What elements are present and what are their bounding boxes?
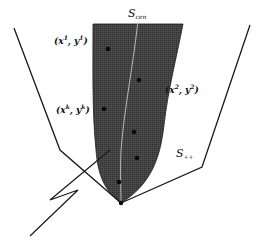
point-dot-xkyk [102, 107, 107, 112]
point-dot-p5 [135, 156, 140, 161]
point-dot-apex [119, 201, 123, 205]
point-dot-x1y1 [106, 47, 111, 52]
point-2-label: (x2, y2) [165, 83, 199, 96]
point-1-label: (x1, y1) [54, 34, 88, 47]
point-dot-p6 [117, 180, 122, 185]
point-dot-p4 [132, 130, 137, 135]
diagram-canvas: Scen (x1, y1) (x2, y2) (xk, yk) S++ [0, 0, 263, 246]
point-k-label: (xk, yk) [56, 103, 90, 116]
feasible-set-label: S++ [176, 147, 194, 160]
point-dot-x2y2 [137, 78, 142, 83]
shaded-neighborhood-region [93, 24, 183, 203]
central-path-label: Scen [128, 7, 146, 20]
